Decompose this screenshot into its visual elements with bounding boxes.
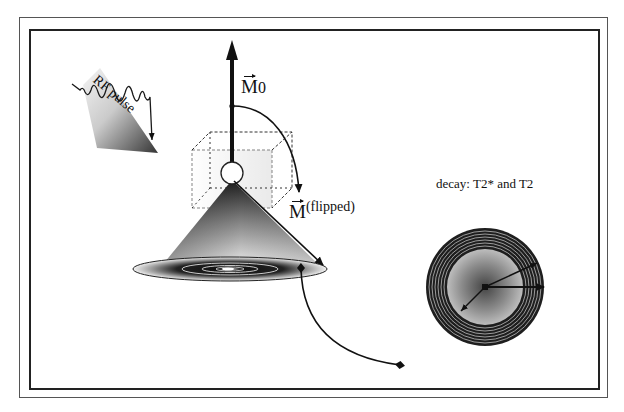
m0-subscript: 0 xyxy=(258,79,266,96)
m-flipped-superscript: (flipped) xyxy=(306,199,355,214)
m-flipped-label: M(flipped) xyxy=(289,199,355,223)
precession-cone xyxy=(160,180,322,268)
spin-sphere xyxy=(221,162,243,184)
decay-rings xyxy=(426,228,544,346)
rf-pulse-graphic xyxy=(72,68,158,153)
m0-label: M0 xyxy=(241,76,266,98)
m-flipped-symbol: M xyxy=(289,201,306,223)
precession-disk xyxy=(133,257,327,281)
connector-curve xyxy=(301,268,400,365)
decay-label: decay: T2* and T2 xyxy=(436,176,533,192)
m0-symbol: M xyxy=(241,76,258,98)
